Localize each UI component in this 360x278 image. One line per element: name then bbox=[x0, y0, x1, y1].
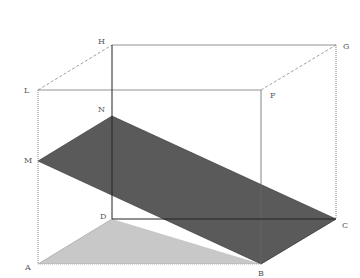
edge-fg-dashed bbox=[261, 45, 336, 90]
label-a: A bbox=[24, 263, 31, 272]
label-g: G bbox=[343, 42, 349, 51]
label-b: B bbox=[258, 269, 264, 278]
label-d: D bbox=[100, 212, 106, 221]
label-f: F bbox=[270, 91, 276, 100]
label-h: H bbox=[98, 37, 105, 46]
label-l: L bbox=[24, 86, 30, 95]
cuboid-diagram: H G L F N M D C A B bbox=[0, 0, 360, 278]
label-m: M bbox=[24, 156, 32, 165]
label-n: N bbox=[98, 105, 105, 114]
edge-lh-dashed bbox=[38, 45, 112, 90]
label-c: C bbox=[342, 221, 348, 230]
